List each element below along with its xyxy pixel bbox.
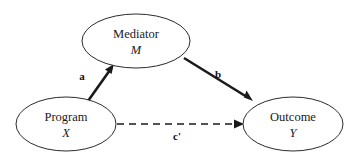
outcome-label: Outcome: [270, 110, 316, 124]
path-a-label: a: [79, 70, 85, 82]
program-label: Program: [44, 110, 87, 124]
path-a-line: [88, 70, 110, 101]
node-mediator: Mediator M: [82, 14, 190, 68]
program-ellipse: [16, 97, 116, 151]
node-outcome: Outcome Y: [243, 97, 343, 151]
path-c-prime-group: [117, 120, 244, 129]
outcome-ellipse: [243, 97, 343, 151]
diagram-canvas: Mediator M Program X Outcome Y a b c': [0, 0, 355, 163]
mediator-label: Mediator: [113, 27, 160, 41]
path-b-arrowhead: [244, 91, 253, 102]
node-program: Program X: [16, 97, 116, 151]
path-a-group: [88, 64, 114, 101]
mediation-diagram: Mediator M Program X Outcome Y a b c': [0, 0, 355, 163]
mediator-variable: M: [130, 43, 142, 57]
mediator-ellipse: [82, 14, 190, 68]
path-b-label: b: [215, 68, 221, 80]
program-variable: X: [61, 126, 71, 140]
path-c-prime-label: c': [173, 130, 181, 142]
